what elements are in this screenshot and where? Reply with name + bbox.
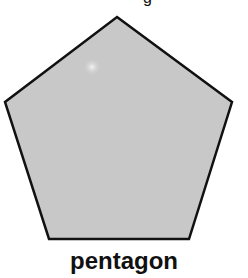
pentagon-shape — [5, 17, 232, 239]
shape-label: pentagon — [0, 247, 248, 275]
pentagon-figure — [0, 0, 248, 278]
highlight-spot — [83, 58, 101, 76]
